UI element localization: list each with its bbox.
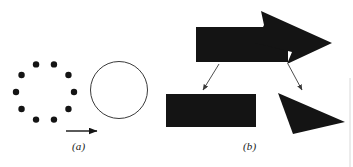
ring-dot (18, 72, 24, 78)
decomposed-rectangle (166, 94, 256, 127)
figure-container: (a) (b) (0, 0, 353, 167)
ring-dot (33, 116, 39, 122)
connector-arrow-left (203, 64, 219, 90)
ring-dot (33, 61, 39, 67)
ring-dot (18, 106, 24, 112)
ring-dot (65, 106, 71, 112)
dot-ring (13, 61, 77, 123)
ring-dot (13, 89, 19, 95)
ring-dot (71, 89, 77, 95)
decomposed-triangle (278, 93, 345, 134)
panel-b-group (166, 11, 345, 134)
ring-dot (65, 72, 71, 78)
connector-arrow-right (288, 64, 302, 90)
outline-circle (91, 62, 148, 119)
panel-label-b: (b) (243, 140, 256, 152)
panel-label-a: (a) (72, 140, 85, 152)
figure-canvas (0, 0, 353, 167)
ring-dot (51, 61, 57, 67)
panel-a-group (13, 61, 148, 131)
ring-dot (51, 116, 57, 122)
